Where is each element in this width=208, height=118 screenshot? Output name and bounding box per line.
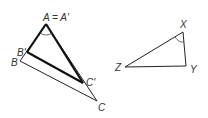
segment-yz: [125, 66, 186, 67]
triangle-a-prime-b-prime-c-prime: [27, 24, 83, 83]
segment-xy: [183, 32, 186, 66]
angle-mark-x: [175, 37, 184, 42]
segment-xz: [125, 32, 183, 67]
label-b: B: [11, 57, 18, 68]
segment-a-b-prime: [27, 24, 46, 52]
label-y: Y: [190, 64, 198, 75]
label-c-prime: C': [86, 77, 96, 88]
label-x: X: [179, 19, 187, 30]
angle-mark-a: [40, 33, 52, 35]
label-b-prime: B': [17, 47, 27, 58]
triangle-abc: [20, 24, 97, 101]
label-a: A = A': [42, 12, 70, 23]
geometry-diagram: A = A' B' B C' C X Y Z: [0, 0, 208, 118]
triangle-xyz: [125, 32, 186, 67]
label-c: C: [98, 102, 106, 113]
label-z: Z: [114, 62, 122, 73]
